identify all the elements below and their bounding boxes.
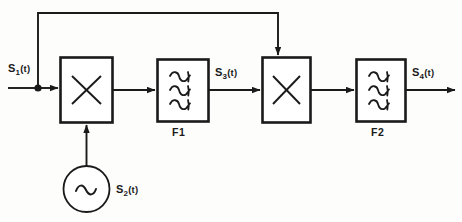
signal-label-s2: S2(t) — [116, 183, 138, 198]
signal-label-s3: S3(t) — [215, 66, 237, 81]
signal-label-s4: S4(t) — [412, 66, 434, 81]
filter2-block — [357, 60, 406, 122]
diagram-canvas — [0, 0, 462, 222]
block-diagram: S1(t) S2(t) S3(t) S4(t) F1 F2 — [0, 0, 462, 222]
filter2-label: F2 — [371, 126, 384, 138]
filter1-block — [158, 60, 209, 122]
filter1-label: F1 — [172, 126, 185, 138]
signal-label-s1: S1(t) — [8, 62, 30, 77]
